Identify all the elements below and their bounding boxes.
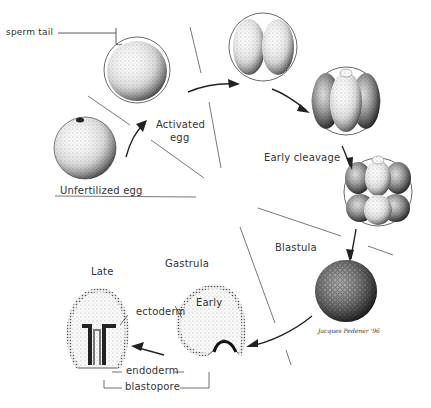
- label-ectoderm: ectoderm: [136, 306, 185, 317]
- label-activated-egg-line2: egg: [170, 132, 189, 143]
- arrow-blastula-to-early-gastrula: [249, 316, 312, 346]
- label-endoderm: endoderm: [126, 365, 179, 376]
- development-cycle-illustration: [0, 0, 431, 408]
- unfertilized-egg: [54, 117, 116, 179]
- label-unfertilized-egg: Unfertilized egg: [60, 185, 143, 196]
- activated-egg: [104, 37, 170, 103]
- sperm-tail-pointer: [58, 28, 116, 44]
- label-early: Early: [196, 297, 222, 308]
- blastula: [315, 260, 377, 322]
- four-cell-egg: [312, 67, 380, 135]
- artist-signature: Jacques Pedener '96: [318, 327, 380, 334]
- label-blastopore: blastopore: [125, 381, 180, 392]
- label-gastrula: Gastrula: [165, 258, 209, 269]
- two-cell-egg: [229, 13, 297, 81]
- eight-cell-egg: [344, 156, 412, 226]
- label-sperm-tail: sperm tail: [6, 27, 53, 37]
- label-activated-egg-line1: Activated: [156, 119, 205, 130]
- label-late: Late: [91, 266, 114, 277]
- label-blastula: Blastula: [275, 242, 317, 253]
- late-gastrula: [69, 290, 127, 368]
- label-early-cleavage: Early cleavage: [264, 152, 340, 163]
